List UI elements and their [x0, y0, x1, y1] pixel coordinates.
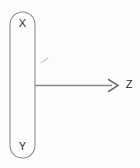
label-x: X: [19, 17, 27, 29]
faint-tick-mark: [41, 58, 48, 63]
vertical-capsule-shape: [10, 12, 35, 158]
label-y: Y: [19, 140, 27, 152]
axis-diagram-canvas: X Y Z: [0, 0, 140, 168]
diagram-svg: X Y Z: [0, 0, 140, 168]
label-z: Z: [126, 78, 133, 90]
